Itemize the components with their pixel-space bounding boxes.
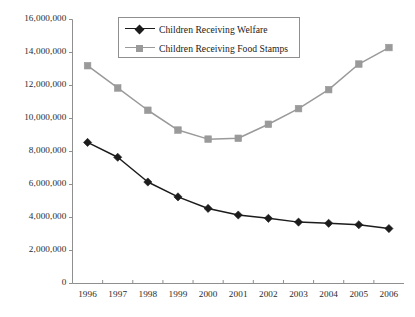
y-axis-tick-label: 0: [62, 277, 67, 287]
x-axis-tick-label: 2002: [253, 289, 283, 299]
legend-label-welfare: Children Receiving Welfare: [159, 24, 268, 35]
legend-marker-square-icon: [125, 41, 155, 55]
legend-marker-diamond-icon: [125, 22, 155, 36]
x-axis-tick-label: 1999: [163, 289, 193, 299]
chart-legend: Children Receiving Welfare Children Rece…: [118, 17, 300, 58]
x-axis-tick-label: 2003: [283, 289, 313, 299]
y-axis-tick-label: 6,000,000: [29, 178, 67, 188]
y-axis-tick-label: 10,000,000: [24, 112, 66, 122]
y-axis-tick-label: 2,000,000: [29, 244, 67, 254]
y-axis-tick-label: 16,000,000: [24, 13, 66, 23]
legend-item-welfare: Children Receiving Welfare: [119, 19, 299, 39]
y-axis-tick-label: 14,000,000: [24, 46, 66, 56]
x-axis-tick-label: 1998: [133, 289, 163, 299]
y-axis-tick-label: 12,000,000: [24, 79, 66, 89]
legend-label-food-stamps: Children Receiving Food Stamps: [159, 43, 288, 54]
x-axis-tick-label: 2006: [374, 289, 404, 299]
chart-container: 02,000,0004,000,0006,000,0008,000,00010,…: [0, 0, 415, 317]
x-axis-tick-label: 1996: [73, 289, 103, 299]
chart-series: [83, 44, 393, 232]
x-axis-tick-label: 2005: [344, 289, 374, 299]
x-axis-tick-label: 2000: [193, 289, 223, 299]
y-axis-tick-label: 4,000,000: [29, 211, 67, 221]
y-axis-tick-label: 8,000,000: [29, 145, 67, 155]
x-axis-tick-label: 1997: [103, 289, 133, 299]
legend-item-food-stamps: Children Receiving Food Stamps: [119, 38, 299, 58]
x-axis-tick-label: 2001: [223, 289, 253, 299]
chart-axes: [69, 20, 404, 284]
x-axis-tick-label: 2004: [314, 289, 344, 299]
